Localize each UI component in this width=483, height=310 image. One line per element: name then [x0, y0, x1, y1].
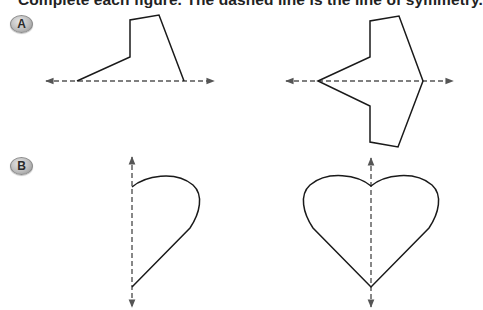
- problem-b-given-figure: [132, 157, 200, 307]
- half-polygon-a: [77, 15, 184, 81]
- problem-a-given-figure: [46, 15, 214, 81]
- problem-b-completed-figure: [303, 158, 438, 307]
- problem-a-completed-figure: [286, 16, 453, 147]
- half-heart-b: [132, 176, 200, 287]
